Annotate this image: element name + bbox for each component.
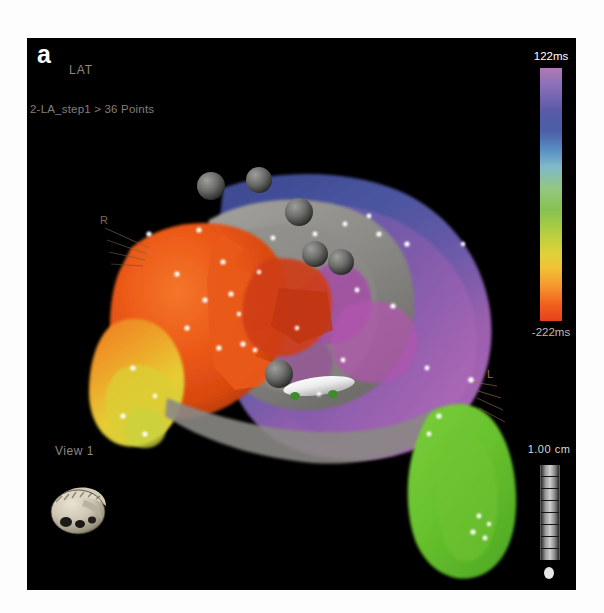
lesion-tag[interactable]	[265, 360, 293, 388]
lesion-tag[interactable]	[328, 249, 354, 275]
scale-indicator-dot	[544, 567, 554, 579]
colorbar-max-label: 122ms	[527, 50, 575, 62]
region-early-yellow	[89, 319, 184, 448]
annotation-label-right: R	[100, 214, 108, 226]
region-appendage	[408, 404, 516, 579]
heart-orientation-icon[interactable]	[44, 478, 114, 540]
panel-letter: a	[37, 42, 51, 67]
scale-bar-label: 1.00 cm	[521, 443, 576, 455]
view-label: View 1	[55, 444, 94, 458]
figure-root: a LAT 2-LA_step1 > 36 Points View 1 R L	[0, 0, 604, 613]
annotation-label-left: L	[487, 368, 494, 380]
lesion-tag[interactable]	[197, 172, 225, 200]
ruler-icon	[540, 465, 560, 560]
scale-bar: 1.00 cm	[521, 443, 576, 588]
map-type-label: LAT	[69, 63, 93, 77]
map-viewport[interactable]: a LAT 2-LA_step1 > 36 Points View 1 R L	[27, 38, 576, 590]
lesion-tag[interactable]	[302, 241, 328, 267]
lesion-tag[interactable]	[246, 167, 272, 193]
lat-colorbar[interactable]: 122ms -222ms	[527, 50, 575, 360]
breadcrumb[interactable]: 2-LA_step1 > 36 Points	[30, 103, 154, 115]
lesion-tag[interactable]	[285, 198, 313, 226]
colorbar-min-label: -222ms	[527, 326, 575, 338]
colorbar-gradient[interactable]	[540, 68, 562, 321]
